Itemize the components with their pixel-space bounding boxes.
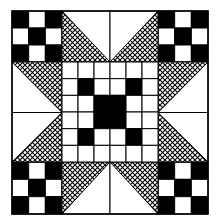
ninepatch-cell xyxy=(29,11,46,28)
center-grid-cell xyxy=(126,145,142,162)
center-grid-cell xyxy=(62,62,78,79)
ninepatch-cell xyxy=(45,179,62,196)
ninepatch-cell xyxy=(45,162,62,179)
center-grid-cell xyxy=(78,145,94,162)
center-grid-cell xyxy=(142,62,158,79)
center-grid-cell xyxy=(126,112,142,129)
center-grid-cell xyxy=(142,79,158,96)
ninepatch-cell xyxy=(158,28,175,45)
ninepatch-cell xyxy=(175,179,192,196)
center-grid-cell xyxy=(110,95,126,112)
ninepatch-cell xyxy=(29,197,46,214)
ninepatch-cell xyxy=(12,45,29,62)
ninepatch-cell xyxy=(29,162,46,179)
ninepatch-cell xyxy=(158,197,175,214)
center-grid-cell xyxy=(94,79,110,96)
center-grid-cell xyxy=(62,112,78,129)
quilt-block-diagram xyxy=(0,0,218,224)
ninepatch-cell xyxy=(12,197,29,214)
center-grid-cell xyxy=(126,79,142,96)
ninepatch-cell xyxy=(45,45,62,62)
ninepatch-cell xyxy=(12,162,29,179)
center-grid-cell xyxy=(142,95,158,112)
ninepatch-cell xyxy=(175,11,192,28)
ninepatch-cell xyxy=(175,197,192,214)
center-grid-cell xyxy=(94,129,110,146)
center-grid-cell xyxy=(110,79,126,96)
ninepatch-cell xyxy=(191,197,208,214)
center-grid-cell xyxy=(110,62,126,79)
center-grid-cell xyxy=(78,112,94,129)
ninepatch-cell xyxy=(191,45,208,62)
center-grid-cell xyxy=(142,145,158,162)
ninepatch-cell xyxy=(29,45,46,62)
center-grid-cell xyxy=(110,112,126,129)
center-grid-cell xyxy=(62,129,78,146)
center-grid-cell xyxy=(78,129,94,146)
center-grid-cell xyxy=(94,112,110,129)
center-grid-cell xyxy=(142,129,158,146)
ninepatch-cell xyxy=(45,11,62,28)
center-grid-cell xyxy=(142,112,158,129)
center-grid-cell xyxy=(126,129,142,146)
ninepatch-cell xyxy=(12,28,29,45)
ninepatch-cell xyxy=(175,45,192,62)
ninepatch-cell xyxy=(45,28,62,45)
ninepatch-cell xyxy=(158,11,175,28)
ninepatch-cell xyxy=(45,197,62,214)
center-grid-cell xyxy=(62,95,78,112)
center-grid-cell xyxy=(110,145,126,162)
quilt-layer xyxy=(12,11,208,214)
center-grid-cell xyxy=(62,145,78,162)
ninepatch-cell xyxy=(29,179,46,196)
ninepatch-cell xyxy=(191,179,208,196)
ninepatch-cell xyxy=(175,28,192,45)
ninepatch-cell xyxy=(158,179,175,196)
ninepatch-cell xyxy=(158,162,175,179)
center-grid-cell xyxy=(62,79,78,96)
ninepatch-cell xyxy=(158,45,175,62)
ninepatch-cell xyxy=(191,11,208,28)
ninepatch-cell xyxy=(12,179,29,196)
center-grid-cell xyxy=(126,62,142,79)
center-grid-cell xyxy=(94,145,110,162)
center-grid-cell xyxy=(78,95,94,112)
center-grid-cell xyxy=(94,62,110,79)
ninepatch-cell xyxy=(191,162,208,179)
ninepatch-cell xyxy=(29,28,46,45)
ninepatch-cell xyxy=(12,11,29,28)
ninepatch-cell xyxy=(175,162,192,179)
center-grid-cell xyxy=(78,62,94,79)
ninepatch-cell xyxy=(191,28,208,45)
center-grid-cell xyxy=(126,95,142,112)
center-grid-cell xyxy=(78,79,94,96)
center-grid-cell xyxy=(110,129,126,146)
center-grid-cell xyxy=(94,95,110,112)
